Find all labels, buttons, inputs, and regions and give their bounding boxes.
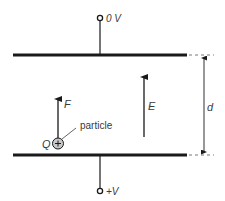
bottom-terminal-label: +V — [106, 186, 120, 197]
particle: Q — [42, 138, 64, 150]
charge-label: Q — [42, 138, 51, 150]
bottom-terminal: +V — [97, 155, 119, 197]
separation-label: d — [207, 101, 214, 113]
separation-dimension: d — [204, 58, 214, 152]
top-terminal: 0 V — [97, 13, 122, 56]
particle-callout-label: particle — [80, 120, 113, 131]
field-label: E — [148, 100, 156, 112]
particle-callout: particle — [62, 120, 113, 139]
field-arrow: E — [144, 77, 156, 137]
top-terminal-label: 0 V — [106, 13, 122, 24]
capacitor-diagram: 0 V +V d E F Q particle — [0, 0, 225, 201]
force-label: F — [64, 98, 72, 110]
